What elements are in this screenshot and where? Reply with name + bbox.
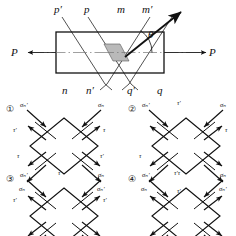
label-mid-left: τ′ (13, 126, 17, 133)
label-top-center: τ (58, 169, 61, 176)
arrow-sigma-n-bottom (27, 165, 46, 182)
plane-label-p: p (83, 3, 90, 15)
label-low-left: τ (139, 152, 142, 159)
plane-label-m-prime: m′ (142, 3, 153, 15)
angle-label-theta: θ (148, 28, 154, 40)
shear-face-strokes (157, 192, 215, 236)
stress-element-diamond (30, 188, 98, 236)
label-bottom-left: σₙ (19, 185, 25, 192)
label-mid-left: τ′ (13, 196, 17, 203)
label-top-right: σₙ (220, 171, 226, 178)
label-low-left: τ (17, 152, 20, 159)
label-mid-right: τ′ (103, 196, 107, 203)
arrow-sigma-n-prime (149, 110, 168, 127)
arrow-sigma-n-prime (27, 180, 46, 197)
load-label-right: P (208, 46, 216, 58)
shear-face-strokes (35, 122, 93, 170)
option-3-group[interactable]: ③ σₙ′ τ σₙ τ′ τ′ (6, 169, 107, 236)
shear-arrows (28, 126, 100, 166)
arrow-sigma-n-prime (27, 110, 46, 127)
label-top-center: τ′ (177, 99, 181, 106)
top-diagram-group: p′ p m m′ n n′ q′ q P P θ (10, 3, 216, 96)
label-mid-right: τ (103, 126, 106, 133)
plane-label-n-prime: n′ (86, 84, 95, 96)
label-top-left: σₙ′ (20, 171, 28, 178)
stress-element-diamond (152, 188, 220, 236)
arrow-sigma-n-prime (149, 180, 168, 197)
option-4-number: ④ (128, 174, 136, 184)
plane-label-q: q (157, 84, 163, 96)
shear-arrows (150, 126, 222, 166)
shear-face-strokes (35, 192, 93, 236)
option-3-number: ③ (6, 174, 14, 184)
shear-arrows (28, 196, 100, 236)
label-top-right: σₙ (98, 101, 104, 108)
plane-label-n: n (62, 84, 68, 96)
label-top-center: τ′τ (174, 169, 181, 176)
label-top-left: σₙ′ (142, 101, 150, 108)
plane-label-q-prime: q′ (127, 84, 136, 96)
label-bottom-left: σₙ (141, 185, 147, 192)
load-label-left: P (10, 46, 18, 58)
label-top-right: σₙ (98, 171, 104, 178)
shear-face-strokes (157, 122, 215, 170)
label-top-left: σₙ′ (20, 101, 28, 108)
engineering-stress-figure: p′ p m m′ n n′ q′ q P P θ ① (0, 0, 236, 236)
label-low-right: τ′ (100, 152, 104, 159)
label-bottom-right: σₙ′ (97, 185, 105, 192)
arrow-sigma-n-bottom (149, 165, 168, 182)
label-bottom-right: σₙ′ (219, 185, 227, 192)
option-1-number: ① (6, 104, 14, 114)
option-2-group[interactable]: ② σₙ′ τ′ σₙ τ τ σₙ τ′ σₙ′ (128, 99, 228, 194)
arrow-sigma-n (82, 110, 101, 127)
option-1-group[interactable]: ① σₙ′ σₙ τ′ τ τ τ′ σₙ σₙ′ (6, 101, 106, 192)
label-top-right: σₙ (220, 101, 226, 108)
arrow-sigma-n (204, 110, 223, 127)
label-top-left: σₙ′ (142, 171, 150, 178)
figure-canvas: p′ p m m′ n n′ q′ q P P θ ① (0, 0, 236, 236)
plane-label-m: m (117, 3, 125, 15)
shear-arrows (150, 196, 222, 236)
option-4-group[interactable]: ④ σₙ′ τ′τ σₙ (128, 169, 226, 236)
label-mid-right: τ (225, 126, 228, 133)
plane-label-p-prime: p′ (53, 3, 63, 15)
option-2-number: ② (128, 104, 136, 114)
